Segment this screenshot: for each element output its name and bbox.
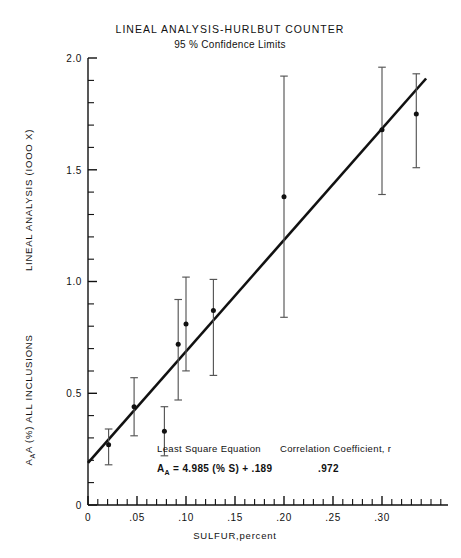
equation-body: = 4.985 (% S) + .189 — [170, 463, 272, 474]
correlation-coefficient-value: .972 — [318, 463, 339, 474]
y-tick-label-2_0: 2.0 — [66, 53, 82, 64]
x-tick-label-005: .05 — [129, 512, 145, 523]
x-tick-label-0: 0 — [85, 512, 91, 523]
y-tick-label-0_5: 0.5 — [66, 388, 82, 399]
chart-subtitle: 95 % Confidence Limits — [174, 39, 286, 50]
data-point — [132, 404, 137, 409]
y-axis-label-upper: LINEAL ANALYSIS (IOOO X) — [23, 129, 34, 271]
data-point — [211, 308, 216, 313]
data-point — [162, 429, 167, 434]
x-axis-tick-labels: 0 .05 .10 .15 .20 .25 .30 — [85, 512, 390, 523]
x-tick-label-010: .10 — [178, 512, 194, 523]
x-tick-label-025: .25 — [325, 512, 341, 523]
x-tick-label-020: .20 — [276, 512, 292, 523]
data-point-group — [280, 76, 288, 317]
x-axis-ticks — [88, 496, 441, 505]
x-axis-label: SULFUR,percent — [193, 530, 277, 541]
data-point — [106, 442, 111, 447]
least-square-equation-header: Least Square Equation — [157, 443, 261, 454]
data-point — [282, 194, 287, 199]
plot-axes — [88, 58, 448, 505]
y-axis-label-lower-group: AAA (%) ALL INCLUSIONS — [23, 334, 36, 465]
data-point — [380, 127, 385, 132]
lineal-analysis-scatter-plot: LINEAL ANALYSIS-HURLBUT COUNTER 95 % Con… — [0, 0, 461, 558]
least-square-equation-text: AA = 4.985 (% S) + .189 — [157, 463, 272, 476]
y-tick-label-0: 0 — [76, 500, 82, 511]
data-point — [184, 322, 189, 327]
data-point — [176, 342, 181, 347]
data-point — [414, 112, 419, 117]
y-axis-tick-labels: 0 0.5 1.0 1.5 2.0 — [66, 53, 82, 511]
x-tick-label-015: .15 — [227, 512, 243, 523]
y-axis-ticks — [88, 58, 97, 505]
svg-text:AAA (%) ALL INCLUSIONS: AAA (%) ALL INCLUSIONS — [23, 334, 36, 465]
chart-title: LINEAL ANALYSIS-HURLBUT COUNTER — [116, 23, 345, 35]
y-tick-label-1_0: 1.0 — [66, 276, 82, 287]
y-axis-label-lower-text: A (%) ALL INCLUSIONS — [23, 334, 34, 453]
y-tick-label-1_5: 1.5 — [66, 165, 82, 176]
data-point-group — [182, 277, 190, 371]
correlation-coefficient-header: Correlation Coefficient, r — [280, 443, 391, 454]
least-squares-fit-line — [88, 79, 426, 463]
equation-symbol: A — [157, 463, 165, 474]
chart-figure: LINEAL ANALYSIS-HURLBUT COUNTER 95 % Con… — [0, 0, 461, 558]
data-point-group — [174, 300, 182, 401]
data-point-group — [105, 429, 113, 465]
data-point-group — [210, 279, 218, 375]
x-tick-label-030: .30 — [374, 512, 390, 523]
fit-annotation: Least Square Equation Correlation Coeffi… — [157, 443, 391, 476]
y-axis-label-lower-sym: A — [23, 458, 34, 465]
